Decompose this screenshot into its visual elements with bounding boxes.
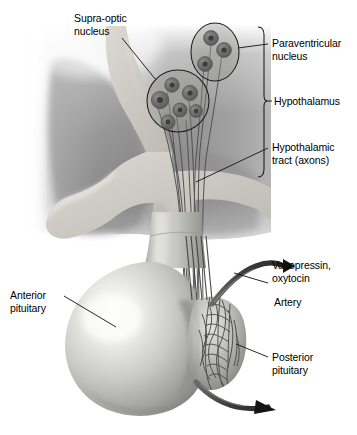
anterior-pituitary-lobe [65, 262, 208, 416]
supraoptic-nucleus-group [147, 70, 209, 132]
label-paraventricular-nucleus: Paraventricular nucleus [272, 37, 341, 62]
label-hypothalamus: Hypothalamus [274, 95, 340, 108]
neuron [182, 85, 197, 100]
label-artery: Artery [274, 296, 301, 309]
label-anterior-pituitary: Anterior pituitary [10, 289, 46, 314]
neuron [198, 57, 213, 72]
label-posterior-pituitary: Posterior pituitary [272, 351, 313, 376]
label-hypothalamic-tract: Hypothalamic tract (axons) [272, 141, 334, 166]
neuron [204, 31, 219, 46]
paraventricular-nucleus-group [191, 23, 239, 81]
neuron [151, 91, 168, 108]
neuron [173, 103, 187, 117]
neuron [217, 43, 232, 58]
label-vasopressin-oxytocin: Vasopressin, oxytocin [272, 259, 331, 284]
arrowhead-venous-outflow [254, 400, 276, 414]
anatomical-diagram-hypothalamus-pituitary: Supra-optic nucleus Paraventricular nucl… [0, 0, 357, 435]
neuron [190, 105, 203, 118]
label-supraoptic-nucleus: Supra-optic nucleus [74, 12, 127, 37]
neuron [165, 78, 179, 92]
neuron [161, 115, 175, 129]
